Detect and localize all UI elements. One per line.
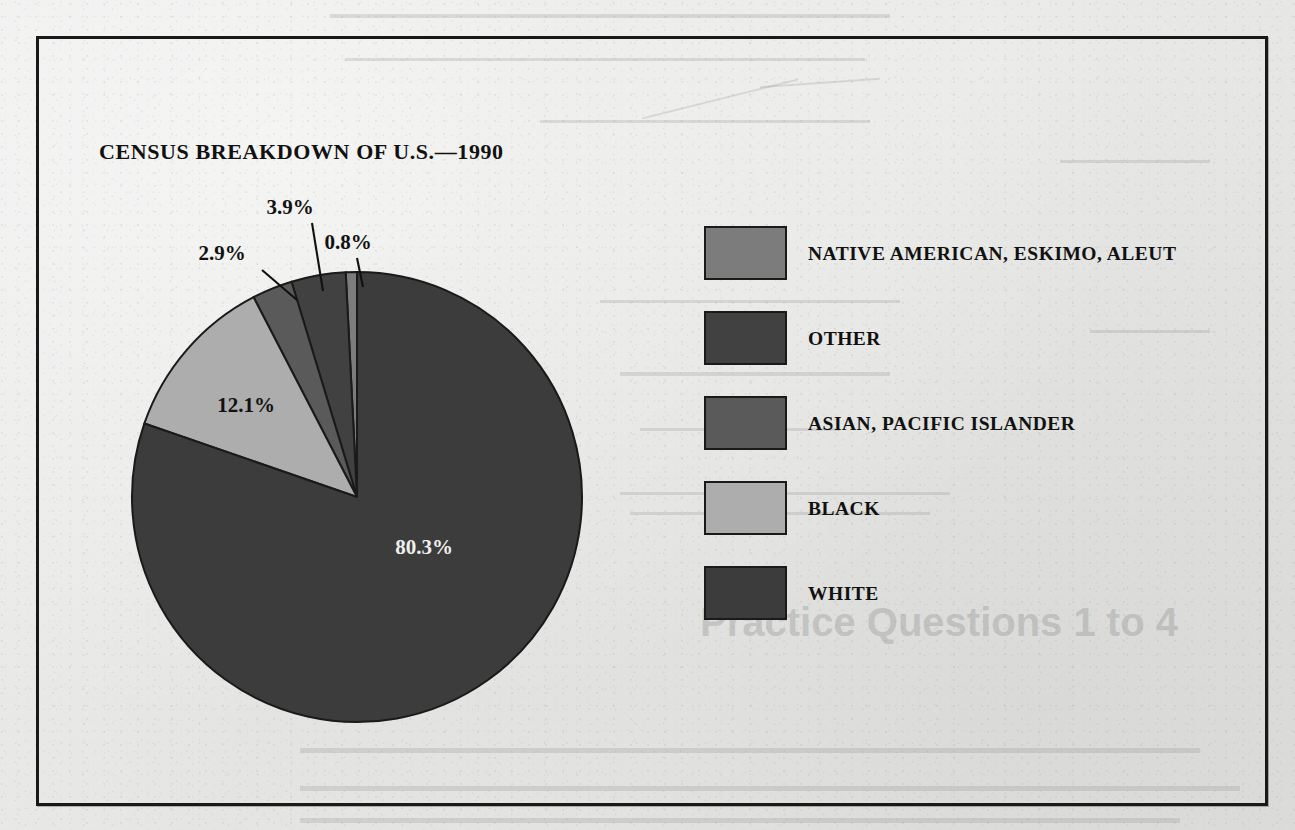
- legend-item-white[interactable]: WHITE: [704, 566, 1224, 651]
- legend-item-label: OTHER: [808, 328, 881, 350]
- legend-item-asian-pacific-islander[interactable]: ASIAN, PACIFIC ISLANDER: [704, 396, 1224, 481]
- bleedthrough-rule: [300, 818, 1180, 823]
- legend-swatch-icon: [704, 396, 787, 450]
- legend-item-label: NATIVE AMERICAN, ESKIMO, ALEUT: [808, 243, 1176, 265]
- chart-title: CENSUS BREAKDOWN OF U.S.—1990: [99, 139, 504, 165]
- legend-item-label: ASIAN, PACIFIC ISLANDER: [808, 413, 1075, 435]
- legend-item-other[interactable]: OTHER: [704, 311, 1224, 396]
- legend-swatch-icon: [704, 311, 787, 365]
- legend-swatch-icon: [704, 226, 787, 280]
- legend-item-label: BLACK: [808, 498, 880, 520]
- legend-swatch-icon: [704, 481, 787, 535]
- bleedthrough-text: [320, 6, 323, 21]
- legend-item-black[interactable]: BLACK: [704, 481, 1224, 566]
- bleedthrough-rule: [330, 14, 890, 18]
- legend-item-label: WHITE: [808, 583, 879, 605]
- legend-item-native-american[interactable]: NATIVE AMERICAN, ESKIMO, ALEUT: [704, 226, 1224, 311]
- legend-swatch-icon: [704, 566, 787, 620]
- chart-legend: NATIVE AMERICAN, ESKIMO, ALEUT OTHER ASI…: [704, 226, 1224, 651]
